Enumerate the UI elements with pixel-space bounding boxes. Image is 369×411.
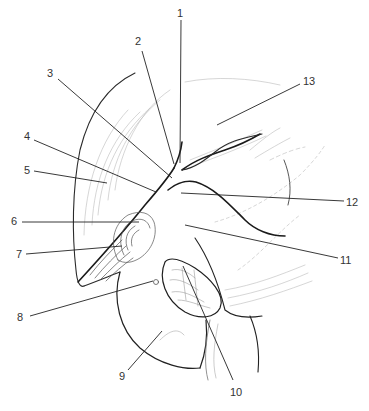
leader-line-12 — [181, 193, 344, 201]
label-4: 4 — [24, 131, 30, 142]
left-lobe-outline — [73, 73, 135, 286]
label-5: 5 — [24, 165, 30, 176]
label-13: 13 — [303, 76, 315, 87]
label-2: 2 — [135, 36, 141, 47]
central-edge — [78, 134, 285, 282]
leader-line-10 — [183, 266, 233, 380]
leader-line-3 — [58, 79, 172, 178]
leader-line-8 — [30, 281, 153, 316]
swirl-structure-7 — [90, 212, 155, 281]
leader-line-9 — [128, 331, 162, 370]
leader-line-5 — [34, 171, 107, 183]
leader-line-2 — [142, 51, 174, 164]
label-10: 10 — [230, 387, 242, 398]
leader-line-13 — [217, 84, 300, 125]
label-8: 8 — [17, 312, 23, 323]
label-6: 6 — [11, 216, 17, 227]
leader-line-11 — [185, 225, 338, 258]
anatomical-illustration — [0, 0, 369, 411]
label-3: 3 — [47, 68, 53, 79]
leader-lines — [22, 20, 344, 380]
upper-right-edge — [182, 134, 290, 205]
label-9: 9 — [119, 371, 125, 382]
leader-line-1 — [180, 20, 181, 163]
label-11: 11 — [340, 255, 351, 266]
label-1: 1 — [177, 8, 183, 19]
right-curved-structures — [195, 238, 262, 380]
label-12: 12 — [346, 197, 358, 208]
label-7: 7 — [16, 249, 22, 260]
lower-rounded-structure-9 — [117, 272, 207, 368]
drawing-structures — [73, 73, 325, 380]
